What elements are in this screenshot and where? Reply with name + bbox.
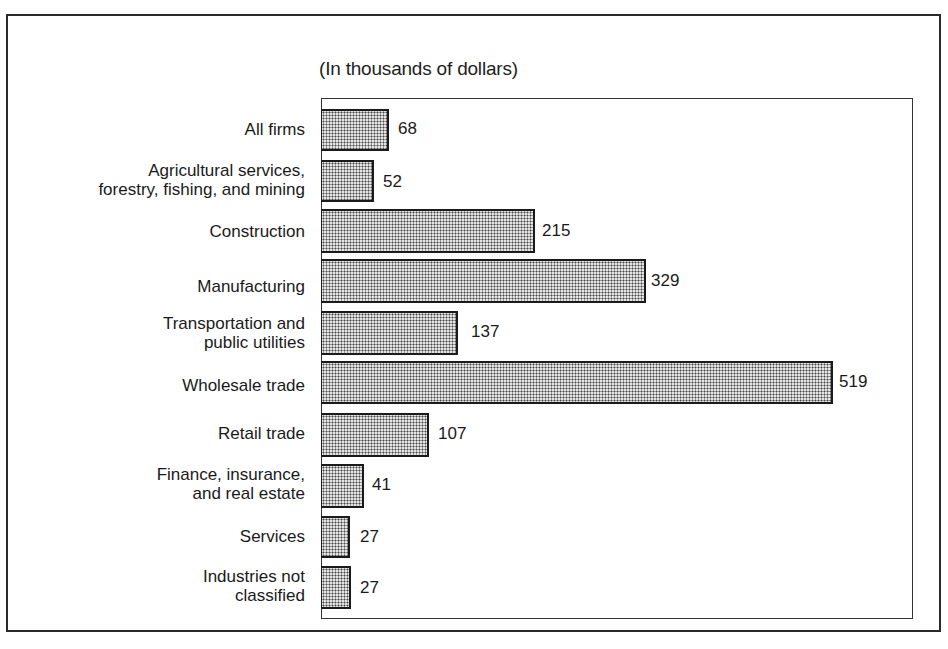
category-label: Industries not classified — [203, 567, 305, 605]
bar-services — [321, 516, 350, 558]
bar-construction — [321, 209, 535, 253]
bar-transportation — [321, 311, 458, 355]
chart-subtitle: (In thousands of dollars) — [319, 58, 518, 80]
bar-agricultural — [321, 160, 374, 202]
category-label: Wholesale trade — [182, 376, 305, 395]
category-label: Agricultural services, forestry, fishing… — [98, 161, 305, 199]
category-label: Services — [240, 527, 305, 546]
category-label-line: Wholesale trade — [182, 376, 305, 395]
category-label-line: Transportation and — [163, 314, 305, 333]
value-label: 41 — [372, 475, 391, 495]
value-label: 27 — [360, 578, 379, 598]
bar-industries-not-classified — [321, 566, 351, 609]
category-label-line: public utilities — [163, 333, 305, 352]
category-label-line: Finance, insurance, — [157, 465, 305, 484]
category-label-line: All firms — [245, 120, 305, 139]
category-label-line: Retail trade — [218, 424, 305, 443]
category-label: Manufacturing — [197, 277, 305, 296]
category-label-line: classified — [203, 586, 305, 605]
category-label-line: Construction — [210, 222, 305, 241]
value-label: 215 — [542, 221, 570, 241]
value-label: 329 — [651, 271, 679, 291]
bar-finance — [321, 464, 364, 508]
value-label: 52 — [383, 172, 402, 192]
category-label: Construction — [210, 222, 305, 241]
category-label-line: Industries not — [203, 567, 305, 586]
bar-wholesale-trade — [321, 361, 833, 404]
value-label: 107 — [438, 424, 466, 444]
value-label: 137 — [471, 322, 499, 342]
category-label-line: Services — [240, 527, 305, 546]
bar-retail-trade — [321, 413, 429, 457]
category-label: Finance, insurance, and real estate — [157, 465, 305, 503]
category-label: Retail trade — [218, 424, 305, 443]
bar-all-firms — [321, 109, 389, 151]
value-label: 27 — [360, 527, 379, 547]
category-label-line: Agricultural services, — [98, 161, 305, 180]
category-label: Transportation and public utilities — [163, 314, 305, 352]
value-label: 68 — [398, 119, 417, 139]
category-label-line: forestry, fishing, and mining — [98, 180, 305, 199]
category-label-line: Manufacturing — [197, 277, 305, 296]
category-label-line: and real estate — [157, 484, 305, 503]
bar-manufacturing — [321, 259, 646, 303]
plot-area — [321, 98, 913, 619]
category-label: All firms — [245, 120, 305, 139]
value-label: 519 — [839, 372, 867, 392]
